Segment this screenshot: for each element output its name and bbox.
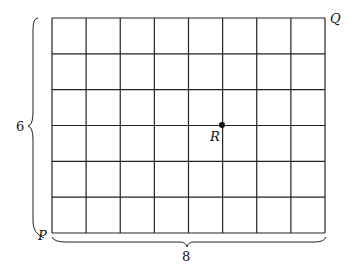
- left-brace: [28, 18, 44, 238]
- point-r-label: R: [209, 129, 220, 144]
- point-r-dot: [219, 122, 225, 128]
- width-label: 8: [182, 249, 190, 264]
- grid-diagram: 6 8 P Q R: [0, 0, 356, 280]
- bottom-brace: [52, 237, 326, 247]
- grid-lines: [52, 18, 325, 233]
- point-p-label: P: [37, 228, 47, 243]
- point-q-label: Q: [330, 11, 341, 26]
- height-label: 6: [16, 119, 24, 134]
